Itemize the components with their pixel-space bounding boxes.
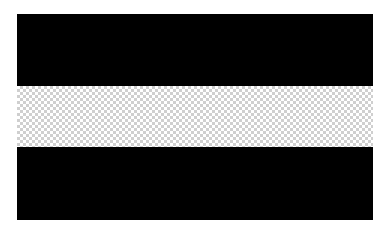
flag-stripe-middle-transparent <box>17 86 373 147</box>
image-canvas <box>0 0 387 237</box>
triband-flag <box>17 14 373 220</box>
flag-stripe-top-black <box>17 14 373 86</box>
flag-stripe-bottom-black <box>17 147 373 220</box>
